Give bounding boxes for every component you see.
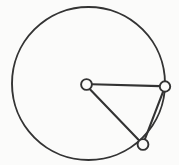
- circle-diagram-svg: [0, 0, 179, 165]
- node-right-on-circle: [160, 81, 170, 91]
- node-center: [81, 79, 92, 90]
- node-bottom-on-circle: [138, 139, 149, 150]
- figure-canvas: Circle with inscribed triangle: [0, 0, 179, 165]
